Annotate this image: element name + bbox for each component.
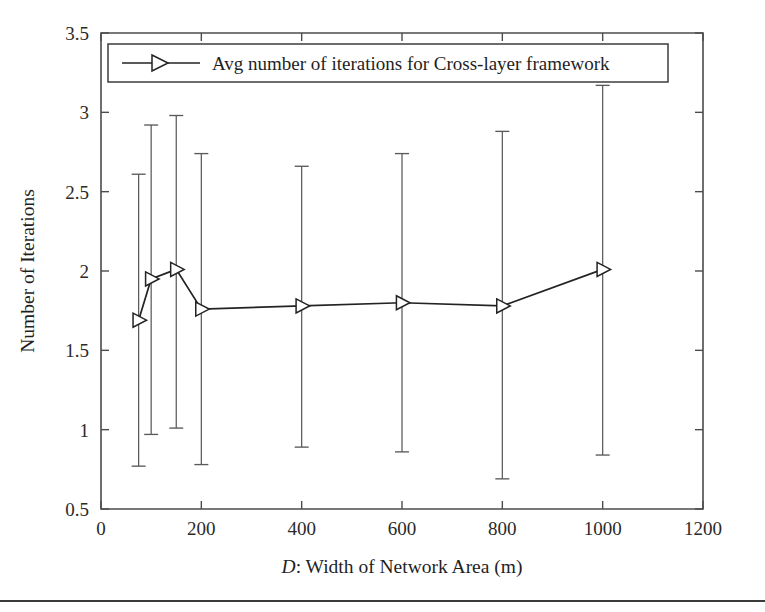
error-bars-group xyxy=(132,85,610,478)
x-tick-label: 1000 xyxy=(584,518,622,539)
data-point-marker-right-triangle-icon xyxy=(396,296,410,310)
data-point-marker-right-triangle-icon xyxy=(171,262,185,276)
x-tick-label: 800 xyxy=(488,518,517,539)
y-tick-label: 3 xyxy=(80,102,90,123)
data-point-marker-right-triangle-icon xyxy=(597,262,611,276)
data-point-marker-right-triangle-icon xyxy=(296,299,310,313)
figure-container: 020040060080010001200 0.511.522.533.5 Av… xyxy=(0,0,765,612)
y-tick-label: 3.5 xyxy=(65,23,89,44)
y-axis-tick-labels: 0.511.522.533.5 xyxy=(65,23,89,520)
line-chart: 020040060080010001200 0.511.522.533.5 Av… xyxy=(0,0,765,612)
y-tick-label: 2 xyxy=(80,261,90,282)
x-tick-label: 600 xyxy=(388,518,417,539)
y-tick-label: 1 xyxy=(80,420,90,441)
y-axis-title: Number of Iterations xyxy=(17,189,38,353)
legend: Avg number of iterations for Cross-layer… xyxy=(108,44,668,82)
page-bottom-rule xyxy=(0,600,765,602)
y-tick-label: 2.5 xyxy=(65,182,89,203)
series-markers-group xyxy=(133,262,611,327)
x-axis-title-rest: : Width of Network Area (m) xyxy=(296,556,523,578)
x-tick-label: 1200 xyxy=(684,518,722,539)
axis-titles: D: Width of Network Area (m) Number of I… xyxy=(17,189,522,578)
x-axis-title-variable: D xyxy=(281,556,296,577)
data-point-marker-right-triangle-icon xyxy=(146,272,160,286)
x-tick-label: 400 xyxy=(287,518,316,539)
data-point-marker-right-triangle-icon xyxy=(497,299,511,313)
x-tick-label: 200 xyxy=(187,518,216,539)
legend-entry-label: Avg number of iterations for Cross-layer… xyxy=(212,53,610,74)
y-tick-label: 1.5 xyxy=(65,340,89,361)
x-axis-title: D: Width of Network Area (m) xyxy=(281,556,523,578)
data-series-group xyxy=(133,262,611,327)
x-tick-label: 0 xyxy=(96,518,106,539)
x-axis-tick-labels: 020040060080010001200 xyxy=(96,518,722,539)
series-line-path xyxy=(139,269,603,320)
data-point-marker-right-triangle-icon xyxy=(196,302,210,316)
y-tick-label: 0.5 xyxy=(65,499,89,520)
